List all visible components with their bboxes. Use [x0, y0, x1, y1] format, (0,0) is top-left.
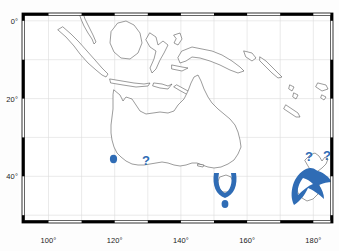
lon-tick-label-160: 160° — [239, 236, 255, 245]
lon-tick-label-140: 140° — [173, 236, 189, 245]
lat-tick-label-40: 40° — [2, 172, 18, 181]
distribution-map-figure: ? ? ? — [0, 0, 339, 251]
lon-tick-label-100: 100° — [41, 236, 57, 245]
frame-outline — [22, 13, 333, 223]
frame-base — [22, 13, 333, 223]
lat-tick-label-0: 0° — [2, 17, 18, 26]
lon-tick-label-120: 120° — [107, 236, 123, 245]
lon-tick-label-180: 180° — [305, 236, 321, 245]
map-frame-border — [22, 13, 333, 223]
lat-tick-label-20: 20° — [2, 95, 18, 104]
frame-inner-outline — [25, 16, 331, 221]
map-plot-area: ? ? ? — [22, 13, 333, 223]
